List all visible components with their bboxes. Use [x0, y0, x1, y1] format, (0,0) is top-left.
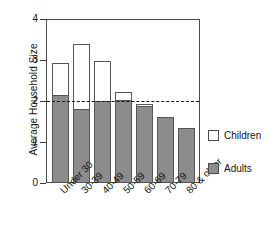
y-tick-label-4: 4 — [26, 14, 38, 24]
y-tick-label-0: 0 — [26, 178, 38, 188]
y-tick-mark-0 — [40, 183, 46, 184]
y-tick-label-2: 2 — [26, 96, 38, 106]
household-size-bar-chart: Average Household Size 4 3 2 1 0 Under 3… — [0, 0, 279, 243]
legend-swatch-children-icon — [208, 130, 219, 141]
bar-segment-adults — [52, 95, 69, 183]
y-tick-label-1: 1 — [26, 137, 38, 147]
legend-item-children: Children — [208, 130, 261, 141]
legend-label-children: Children — [224, 130, 261, 141]
legend-item-adults: Adults — [208, 163, 252, 174]
y-tick-label-3: 3 — [26, 55, 38, 65]
reference-line-at-2 — [47, 101, 199, 102]
legend-swatch-adults-icon — [208, 163, 219, 174]
legend-label-adults: Adults — [224, 163, 252, 174]
